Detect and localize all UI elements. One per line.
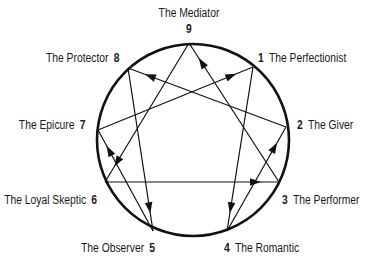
arrowhead-icon (268, 143, 277, 154)
enneagram-diagram (0, 0, 376, 266)
point-number-6: 6 (91, 193, 97, 207)
label-point-9: The Mediator 9 (146, 6, 232, 36)
arrowhead-icon (145, 202, 153, 213)
point-name-1: The Perfectionist (269, 51, 346, 65)
arrowhead-icon (145, 74, 157, 81)
point-number-1: 1 (258, 51, 264, 65)
label-point-6: The Loyal Skeptic6 (4, 193, 97, 207)
point-number-4: 4 (224, 241, 230, 255)
point-number-7: 7 (79, 118, 85, 132)
point-name-2: The Giver (308, 118, 353, 132)
point-number-5: 5 (149, 241, 155, 255)
point-name-9: The Mediator (146, 6, 232, 20)
label-point-1: 1The Perfectionist (258, 51, 346, 65)
arrowhead-icon (199, 58, 208, 69)
label-point-5: The Observer5 (81, 241, 155, 255)
point-number-8: 8 (113, 51, 119, 65)
arrowhead-icon (107, 146, 116, 157)
arrowhead-icon (114, 155, 123, 166)
label-point-8: The Protector8 (46, 51, 119, 65)
point-name-8: The Protector (46, 51, 109, 65)
point-name-6: The Loyal Skeptic (4, 193, 86, 207)
point-number-2: 2 (297, 118, 303, 132)
arrowhead-icon (228, 202, 236, 213)
enneagram-circle (97, 44, 289, 236)
label-point-4: 4The Romantic (224, 241, 299, 255)
point-number-3: 3 (282, 193, 288, 207)
point-name-4: The Romantic (235, 241, 299, 255)
point-name-3: The Performer (293, 193, 360, 207)
point-number-9: 9 (146, 22, 232, 36)
point-name-7: The Epicure (18, 118, 74, 132)
point-name-5: The Observer (81, 241, 144, 255)
label-point-7: The Epicure7 (18, 118, 85, 132)
arrowhead-icon (225, 74, 237, 82)
label-point-2: 2The Giver (297, 118, 353, 132)
label-point-3: 3The Performer (282, 193, 359, 207)
arrowhead-icon (250, 178, 261, 186)
